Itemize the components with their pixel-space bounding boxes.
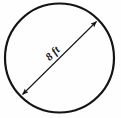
diagram-background (0, 0, 121, 118)
circle-diameter-figure: 8 ft (0, 0, 121, 118)
geometry-diagram-canvas: 8 ft (0, 0, 121, 118)
